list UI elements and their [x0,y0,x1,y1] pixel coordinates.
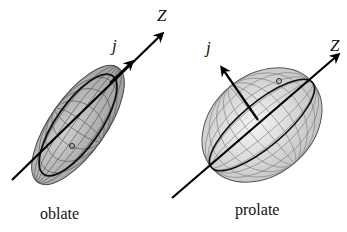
oblate-z-label: Z [157,6,166,26]
prolate-z-label: Z [330,36,339,56]
prolate-ellipsoid [172,44,345,205]
oblate-caption: oblate [40,205,79,223]
prolate-j-label: j [206,38,211,58]
prolate-caption: prolate [235,201,279,219]
oblate-ellipsoid [12,34,162,198]
oblate-j-label: j [112,36,117,56]
